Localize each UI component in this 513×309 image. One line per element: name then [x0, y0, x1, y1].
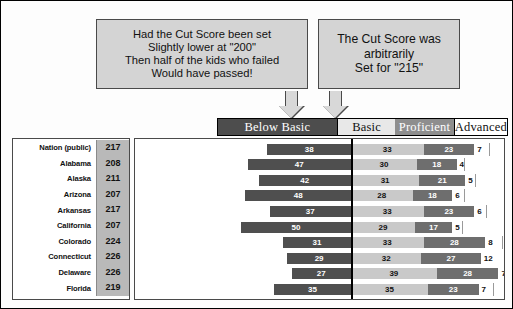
stacked-bar: 2739287 [292, 268, 505, 279]
state-name: Nation (public) [13, 143, 96, 152]
state-name: Arizona [13, 190, 96, 199]
bar-segment-advanced: 4 [457, 159, 466, 170]
table-row: Alaska211 [13, 171, 129, 187]
bar-segment-below-basic: 38 [267, 144, 351, 155]
callout-right-line-1: The Cut Score was [337, 32, 441, 46]
bar-segment-advanced: 7 [474, 144, 489, 155]
bar-segment-proficient: 17 [415, 222, 452, 233]
bar-end-tick [475, 174, 476, 187]
arrow-shaft [329, 91, 342, 107]
bar-segment-below-basic: 48 [245, 190, 351, 201]
bar-segment-advanced: 6 [452, 190, 465, 201]
bar-segment-advanced: 12 [481, 253, 505, 264]
bar-segment-below-basic: 29 [287, 253, 351, 264]
bar-segment-advanced: 8 [485, 237, 503, 248]
arrow-down-icon [279, 91, 305, 119]
slide-canvas: Had the Cut Score been set Slightly lowe… [0, 0, 513, 309]
bar-segment-advanced: 7 [498, 268, 505, 279]
state-name: Delaware [13, 268, 96, 277]
bar-segment-advanced: 5 [465, 175, 476, 186]
cut-score-215-callout: The Cut Score was arbitrarily Set for "2… [318, 19, 460, 89]
stacked-bar: 3535237 [274, 284, 494, 295]
stacked-bar: 3833237 [267, 144, 489, 155]
state-name: Alaska [13, 174, 96, 183]
bar-segment-proficient: 23 [424, 144, 475, 155]
average-score: 208 [96, 156, 129, 172]
bar-segment-proficient: 23 [424, 206, 475, 217]
bar-segment-below-basic: 35 [274, 284, 351, 295]
arrow-shaft [285, 91, 298, 107]
callout-right-line-2: arbitrarily [364, 47, 414, 61]
table-row: Alabama208 [13, 156, 129, 172]
state-name: Florida [13, 284, 96, 293]
average-score: 219 [96, 280, 129, 296]
bar-segment-basic: 32 [351, 253, 421, 264]
cut-score-line [351, 139, 353, 299]
bar-end-tick [489, 143, 490, 156]
bar-end-tick [493, 283, 494, 296]
header-advanced: Advanced [454, 119, 507, 135]
bar-segment-basic: 29 [351, 222, 415, 233]
bar-segment-basic: 28 [351, 190, 413, 201]
stacked-bar: 4828186 [245, 190, 465, 201]
cut-score-200-callout: Had the Cut Score been set Slightly lowe… [96, 19, 308, 89]
state-name: Colorado [13, 237, 96, 246]
table-row: Arizona207 [13, 187, 129, 203]
state-score-table: Nation (public)217Alabama208Alaska211Ari… [12, 138, 130, 300]
table-row: Delaware226 [13, 265, 129, 281]
average-score: 207 [96, 187, 129, 203]
state-name: Connecticut [13, 252, 96, 261]
header-proficient: Proficient [395, 119, 453, 135]
stacked-bar-plot: 3833237473018442312154828186373323650291… [134, 138, 505, 300]
callout-right-line-3: Set for "215" [355, 61, 423, 75]
table-row: Arkansas217 [13, 202, 129, 218]
callout-left-line-4: Would have passed! [151, 67, 252, 80]
bar-segment-proficient: 18 [413, 190, 453, 201]
stacked-bar: 4231215 [259, 175, 477, 186]
average-score: 224 [96, 234, 129, 250]
bar-end-tick [464, 189, 465, 202]
state-name: Alabama [13, 159, 96, 168]
average-score: 226 [96, 265, 129, 281]
bar-end-tick [502, 236, 503, 249]
bar-segment-below-basic: 42 [259, 175, 351, 186]
bar-segment-proficient: 18 [417, 159, 457, 170]
bar-segment-advanced: 5 [452, 222, 463, 233]
bar-segment-below-basic: 31 [283, 237, 351, 248]
bar-segment-proficient: 28 [424, 237, 486, 248]
table-row: Florida219 [13, 280, 129, 296]
bar-segment-below-basic: 27 [292, 268, 351, 279]
average-score: 211 [96, 171, 129, 187]
arrow-head [279, 106, 303, 118]
bar-segment-proficient: 21 [419, 175, 465, 186]
average-score: 217 [96, 202, 129, 218]
stacked-bar: 4730184 [248, 159, 466, 170]
bar-segment-proficient: 27 [421, 253, 480, 264]
bar-segment-basic: 33 [351, 144, 424, 155]
callout-left-line-2: Slightly lower at "200" [148, 41, 256, 54]
bar-end-tick [462, 221, 463, 234]
bar-segment-below-basic: 50 [241, 222, 351, 233]
arrow-down-icon [323, 91, 349, 119]
table-row: California207 [13, 218, 129, 234]
bar-segment-basic: 33 [351, 206, 424, 217]
callout-left-line-3: Then half of the kids who failed [125, 54, 279, 67]
state-name: California [13, 221, 96, 230]
average-score: 207 [96, 218, 129, 234]
stacked-bar: 3133288 [283, 237, 503, 248]
stacked-bar: 29322712 [287, 253, 505, 264]
bar-segment-basic: 33 [351, 237, 424, 248]
state-name: Arkansas [13, 206, 96, 215]
bar-segment-basic: 35 [351, 284, 428, 295]
bar-end-tick [464, 158, 465, 171]
table-row: Colorado224 [13, 234, 129, 250]
bar-segment-basic: 31 [351, 175, 419, 186]
bar-segment-proficient: 23 [428, 284, 479, 295]
header-basic: Basic [337, 119, 396, 135]
bar-segment-advanced: 7 [479, 284, 494, 295]
table-row: Connecticut226 [13, 249, 129, 265]
average-score: 217 [96, 140, 129, 156]
bar-segment-advanced: 6 [474, 206, 487, 217]
achievement-level-header: Below Basic Basic Proficient Advanced [217, 118, 508, 136]
header-below-basic: Below Basic [218, 119, 337, 135]
